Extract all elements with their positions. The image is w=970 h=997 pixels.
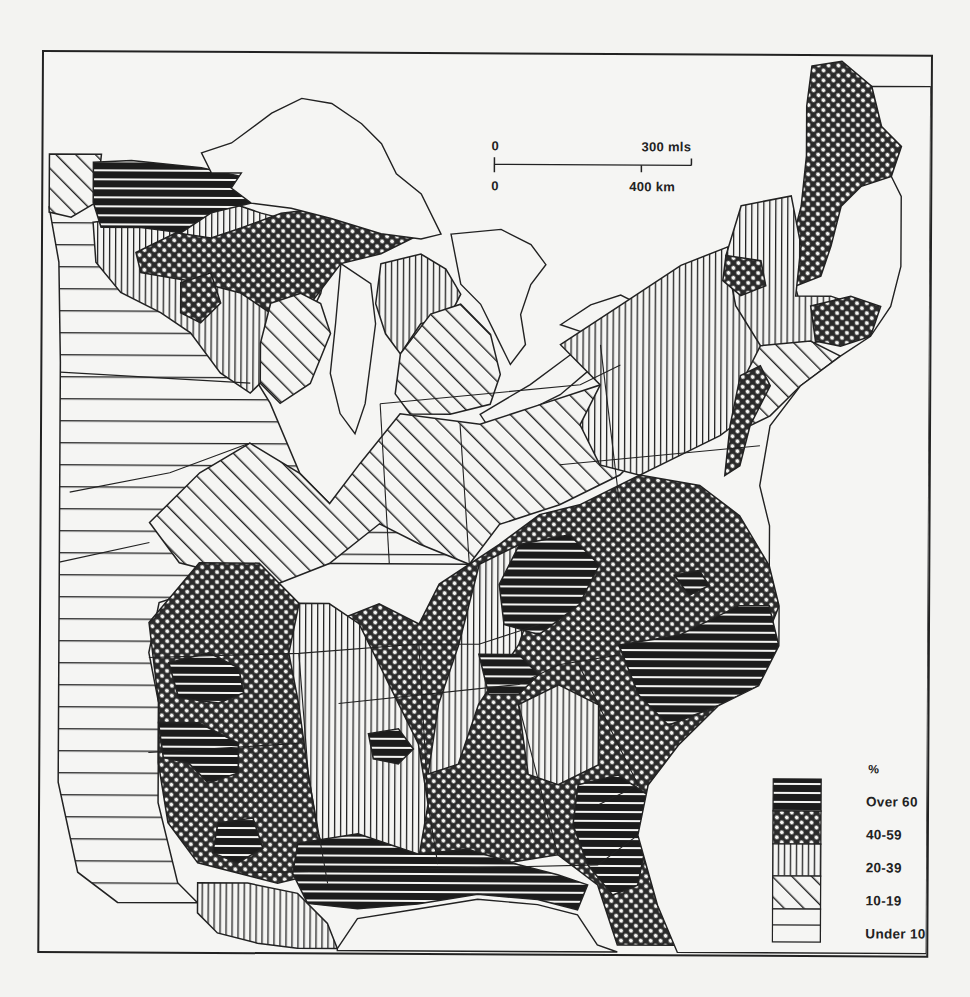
map-frame: 0 300 mls 0 400 km % Over 60 40-59 20-39… [37,50,933,958]
legend-label-under10: Under 10 [865,926,925,941]
swatch-1019 [773,876,821,909]
legend-label-over60: Over 60 [866,794,918,809]
region-1019-wi-east [260,293,331,403]
region-2039-ga-al [518,685,599,785]
legend-label-4059: 40-59 [866,827,902,842]
scale-km-end: 400 km [629,179,675,194]
scale-km-start: 0 [491,178,499,193]
scale-bar: 0 300 mls 0 400 km [491,138,711,199]
region-over60-ga-sc [573,775,649,895]
legend-swatches [771,778,824,944]
scale-miles-start: 0 [491,138,499,153]
scale-line [491,156,701,177]
swatch-4059 [773,811,821,844]
legend-label-2039: 20-39 [866,860,902,875]
legend-label-1019: 10-19 [866,893,902,908]
legend-title: % [868,762,879,776]
scale-miles-end: 300 mls [641,139,691,154]
swatch-over60 [773,779,821,811]
lake-michigan [330,264,376,434]
legend: % Over 60 40-59 20-39 10-19 Under 10 [771,756,932,947]
swatch-2039 [773,844,821,876]
